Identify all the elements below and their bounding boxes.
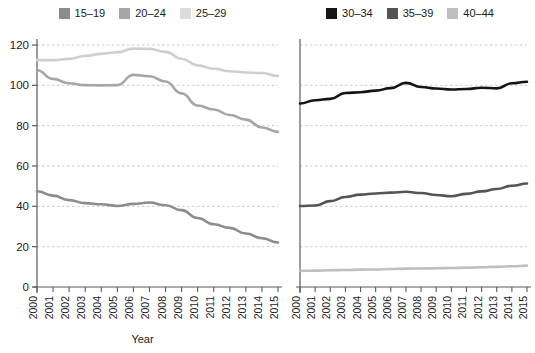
x-tick-label: 2009 [172, 296, 184, 320]
chart-panel-right: 30–34 35–39 40–44 2000200120022003200420… [285, 0, 535, 353]
x-tick-label: 2003 [335, 296, 347, 320]
series-line-20-24 [37, 70, 278, 132]
x-tick-label: 2004 [351, 296, 363, 320]
series-line-35-39 [300, 184, 527, 206]
x-tick-label: 2007 [139, 296, 151, 320]
x-tick-label: 2012 [220, 296, 232, 320]
x-tick-label: 2001 [43, 296, 55, 320]
x-tick-label: 2005 [366, 296, 378, 320]
x-tick-label: 2010 [188, 296, 200, 320]
y-tick-label: 120 [10, 39, 29, 51]
x-tick-label: 2008 [411, 296, 423, 320]
x-tick-label: 2011 [456, 296, 468, 319]
x-tick-label: 2014 [502, 296, 514, 320]
x-tick-label: 2001 [305, 296, 317, 320]
y-tick-label: 80 [16, 120, 29, 132]
x-tick-label: 2002 [59, 296, 71, 320]
x-tick-label: 2004 [91, 296, 103, 320]
x-tick-label: 2009 [426, 296, 438, 320]
x-tick-label: 2014 [252, 296, 264, 320]
x-tick-label: 2005 [107, 296, 119, 320]
x-tick-label: 2006 [381, 296, 393, 320]
x-tick-label: 2011 [204, 296, 216, 319]
y-tick-label: 0 [23, 281, 29, 293]
x-tick-label: 2012 [472, 296, 484, 320]
series-line-25-29 [37, 49, 278, 76]
plot-area-left: 0204060801001202000200120022003200420052… [0, 0, 285, 353]
x-tick-label: 2010 [441, 296, 453, 320]
x-tick-label: 2015 [517, 296, 529, 320]
x-tick-label: 2015 [268, 296, 280, 320]
series-line-15-19 [37, 191, 278, 242]
chart-panel-left: 15–19 20–24 25–29 0204060801001202000200… [0, 0, 285, 353]
series-line-30-34 [300, 82, 527, 104]
y-tick-label: 40 [16, 200, 29, 212]
series-line-40-44 [300, 266, 527, 271]
x-tick-label: 2002 [320, 296, 332, 320]
plot-area-right: 2000200120022003200420052006200720082009… [285, 0, 535, 353]
x-tick-label: 2007 [396, 296, 408, 320]
x-tick-label: 2000 [27, 296, 39, 320]
x-tick-label: 2000 [290, 296, 302, 320]
x-tick-label: 2003 [75, 296, 87, 320]
y-tick-label: 20 [16, 241, 29, 253]
x-axis-label-left: Year [0, 333, 285, 345]
chart-page: 15–19 20–24 25–29 0204060801001202000200… [0, 0, 535, 353]
y-tick-label: 100 [10, 79, 29, 91]
x-tick-label: 2013 [236, 296, 248, 320]
x-tick-label: 2008 [156, 296, 168, 320]
x-tick-label: 2006 [123, 296, 135, 320]
x-tick-label: 2013 [487, 296, 499, 320]
y-tick-label: 60 [16, 160, 29, 172]
